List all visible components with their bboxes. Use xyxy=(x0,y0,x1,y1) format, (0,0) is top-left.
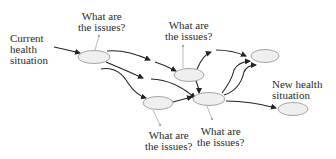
label-question-4: What are the issues? xyxy=(197,126,244,148)
pointer-q4 xyxy=(207,106,212,119)
node-mid-top xyxy=(174,69,204,82)
arrow-current-to-a xyxy=(107,51,150,60)
arrow-current-to-b xyxy=(106,62,143,78)
arrow-midbottom-to-topright-2 xyxy=(224,65,256,95)
label-line: the issues? xyxy=(197,137,244,148)
arrow-midtop-up xyxy=(197,52,211,69)
arrow-midbottom-to-new xyxy=(226,101,276,108)
arrow-midtop-to-midbottom xyxy=(196,81,199,93)
label-question-1: What are the issues? xyxy=(78,11,125,33)
label-new-health: New health situation xyxy=(272,79,322,101)
arrow-start-to-current xyxy=(54,47,80,53)
health-pathway-diagram: Current health situation What are the is… xyxy=(0,0,336,159)
label-line: the issues? xyxy=(78,22,125,33)
label-current-health: Current health situation xyxy=(10,33,48,66)
pointer-q1 xyxy=(95,36,99,50)
node-new-health xyxy=(278,103,308,116)
label-line: situation xyxy=(272,90,322,101)
label-question-2: What are the issues? xyxy=(165,20,212,42)
arrow-midbottomleft-to-midbottom xyxy=(173,97,192,102)
pointer-q3 xyxy=(153,110,160,125)
arrow-a-to-midtop xyxy=(155,62,176,71)
node-top-right xyxy=(251,50,279,63)
label-line: situation xyxy=(10,55,48,66)
node-mid-bottom xyxy=(193,93,225,106)
arrow-current-to-c xyxy=(101,69,146,98)
label-line: the issues? xyxy=(165,31,212,42)
node-current-health xyxy=(78,51,110,64)
arrow-to-topright xyxy=(216,50,246,56)
label-question-3: What are the issues? xyxy=(145,130,192,152)
node-mid-bottom-left xyxy=(143,97,173,110)
label-line: the issues? xyxy=(145,141,192,152)
